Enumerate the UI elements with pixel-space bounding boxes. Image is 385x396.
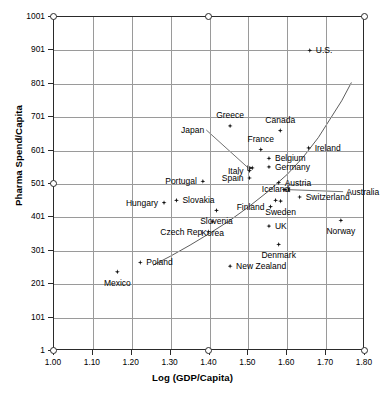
data-point[interactable] [266, 156, 271, 161]
data-point[interactable] [162, 200, 167, 205]
x-axis-tick-mark [325, 350, 326, 355]
x-axis-tick-label: 1.00 [33, 358, 73, 366]
data-point-label: Mexico [104, 279, 131, 288]
data-point-label: Denmark [261, 251, 295, 260]
data-point-label: Czech Rep [160, 227, 202, 236]
y-axis-tick-label: 901 [5, 45, 45, 53]
data-point[interactable] [276, 242, 281, 247]
data-point[interactable] [174, 198, 179, 203]
label-leader-line [206, 130, 248, 168]
data-point-label: Switzerland [306, 193, 350, 202]
y-axis-tick-label: 1001 [5, 12, 45, 20]
data-point[interactable] [278, 128, 283, 133]
data-point-label: Finland [237, 202, 265, 211]
data-point[interactable] [266, 164, 271, 169]
data-point-label: Slovakia [182, 196, 214, 205]
gridline-vertical [93, 17, 94, 349]
data-point-label: Japan [181, 125, 204, 134]
gridline-vertical [248, 17, 249, 349]
y-axis-tick-label: 401 [5, 212, 45, 220]
trend-curve [153, 83, 351, 266]
x-axis-tick-mark [170, 350, 171, 355]
data-point[interactable] [138, 260, 143, 265]
y-axis-tick-mark [48, 283, 53, 284]
data-point[interactable] [214, 208, 219, 213]
x-axis-tick-label: 1.80 [344, 358, 384, 366]
axis-endpoint-marker [50, 13, 57, 20]
gridline-horizontal [54, 251, 363, 252]
x-axis-tick-mark [286, 350, 287, 355]
gridline-horizontal [54, 318, 363, 319]
data-point-label: Canada [265, 116, 295, 125]
data-point-label: Slovenia [200, 217, 233, 226]
data-point[interactable] [307, 48, 312, 53]
data-point[interactable] [278, 199, 283, 204]
x-axis-tick-mark [131, 350, 132, 355]
x-axis-tick-mark [92, 350, 93, 355]
y-axis-tick-mark [48, 116, 53, 117]
data-point[interactable] [338, 218, 343, 223]
data-point-label: UK [275, 222, 287, 231]
y-axis-tick-label: 1 [5, 346, 45, 354]
axis-endpoint-marker [205, 13, 212, 20]
data-point-label: Portugal [165, 177, 197, 186]
y-axis-tick-label: 301 [5, 246, 45, 254]
x-axis-tick-label: 1.20 [111, 358, 151, 366]
y-axis-tick-label: 501 [5, 179, 45, 187]
data-point-label: Sweden [265, 208, 296, 217]
x-axis-tick-label: 1.40 [189, 358, 229, 366]
x-axis-tick-label: 1.30 [150, 358, 190, 366]
axis-endpoint-marker [361, 13, 368, 20]
axis-endpoint-marker [50, 347, 57, 354]
x-axis-tick-label: 1.50 [227, 358, 267, 366]
data-point-label: New Zealand [236, 262, 286, 271]
gridline-horizontal [54, 184, 363, 185]
data-point[interactable] [273, 198, 278, 203]
y-axis-tick-mark [48, 150, 53, 151]
data-point-label: France [248, 135, 274, 144]
data-point-label: Germany [275, 162, 310, 171]
data-point-label: Iceland [262, 185, 289, 194]
gridline-vertical [326, 17, 327, 349]
axis-endpoint-marker [361, 347, 368, 354]
x-axis-tick-label: 1.60 [266, 358, 306, 366]
data-point-label: Australia [346, 187, 379, 196]
x-axis-title: Log (GDP/Capita) [0, 372, 385, 383]
data-point[interactable] [228, 123, 233, 128]
data-point-label: Spain [222, 173, 244, 182]
axis-endpoint-marker [205, 347, 212, 354]
y-axis-tick-mark [48, 216, 53, 217]
scatter-chart: U.S.GreeceCanadaIrelandFranceBelgiumGerm… [0, 0, 385, 396]
data-point-label: U.S. [316, 46, 333, 55]
y-axis-tick-label: 101 [5, 313, 45, 321]
y-axis-tick-label: 801 [5, 79, 45, 87]
y-axis-tick-label: 701 [5, 112, 45, 120]
gridline-vertical [132, 17, 133, 349]
data-point-label: Korea [201, 229, 224, 238]
y-axis-tick-mark [48, 250, 53, 251]
data-point[interactable] [115, 269, 120, 274]
data-point[interactable] [297, 195, 302, 200]
plot-area: U.S.GreeceCanadaIrelandFranceBelgiumGerm… [53, 16, 364, 350]
y-axis-tick-label: 601 [5, 146, 45, 154]
data-point-label: Poland [146, 258, 172, 267]
y-axis-tick-label: 201 [5, 279, 45, 287]
gridline-horizontal [54, 117, 363, 118]
gridline-horizontal [54, 284, 363, 285]
x-axis-tick-mark [247, 350, 248, 355]
y-axis-tick-mark [48, 317, 53, 318]
x-axis-tick-label: 1.70 [305, 358, 345, 366]
data-point[interactable] [228, 264, 233, 269]
data-point-label: Ireland [315, 143, 341, 152]
y-axis-tick-mark [48, 83, 53, 84]
gridline-horizontal [54, 84, 363, 85]
data-point[interactable] [250, 165, 255, 170]
data-point-label: Norway [326, 227, 355, 236]
x-axis-tick-label: 1.10 [72, 358, 112, 366]
data-point[interactable] [266, 224, 271, 229]
axis-endpoint-marker [50, 180, 57, 187]
data-point-label: Hungary [126, 198, 158, 207]
data-point-label: Greece [216, 111, 244, 120]
y-axis-title: Pharma Spend/Capita [13, 86, 24, 226]
gridline-vertical [210, 17, 211, 349]
